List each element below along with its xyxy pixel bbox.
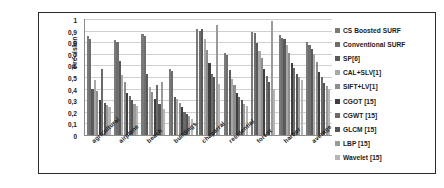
legend-swatch-icon xyxy=(335,84,340,89)
y-axis-tick: 0 xyxy=(51,134,77,141)
legend-swatch-icon xyxy=(335,99,340,104)
legend-item: SP[6] xyxy=(335,52,433,64)
legend-label: SP[6] xyxy=(343,55,360,62)
chart-screenshot: Precision 10,90,80,70,60,50,40,30,20,10 … xyxy=(0,0,444,188)
legend-swatch-icon xyxy=(335,70,340,75)
y-axis-tick: 0,9 xyxy=(51,29,77,36)
legend-label: CS Boosted SURF xyxy=(343,27,401,34)
plot-area xyxy=(84,19,332,136)
x-axis-tick-labels: agriculturalairplanebeachbuildingschapar… xyxy=(84,137,331,173)
legend-label: GLCM [15] xyxy=(343,126,376,133)
bar-group xyxy=(222,19,249,135)
legend-swatch-icon xyxy=(335,56,340,61)
bar-group xyxy=(195,19,222,135)
legend-item: CGOT [15] xyxy=(335,95,433,107)
legend-swatch-icon xyxy=(335,28,340,33)
y-axis-tick: 1 xyxy=(51,18,77,25)
y-axis-tick: 0,2 xyxy=(51,111,77,118)
legend-label: CGOT [15] xyxy=(343,98,376,105)
bar-group xyxy=(305,19,332,135)
legend-label: LBP [15] xyxy=(343,140,370,147)
legend-item: LBP [15] xyxy=(335,138,433,150)
legend-swatch-icon xyxy=(335,155,340,160)
bar xyxy=(163,109,165,135)
y-axis-tick-labels: 10,90,80,70,60,50,40,30,20,10 xyxy=(51,17,77,137)
bar-group xyxy=(85,19,112,135)
legend-label: Conventional SURF xyxy=(343,41,405,48)
bar-group xyxy=(277,19,304,135)
legend-swatch-icon xyxy=(335,42,340,47)
y-axis-tick: 0,7 xyxy=(51,53,77,60)
chart-legend: CS Boosted SURFConventional SURFSP[6]CAL… xyxy=(335,21,433,167)
legend-label: CGWT [15] xyxy=(343,112,377,119)
y-axis-tick: 0,5 xyxy=(51,76,77,83)
chart-frame: Precision 10,90,80,70,60,50,40,30,20,10 … xyxy=(38,12,436,174)
bar xyxy=(273,89,275,135)
legend-item: CGWT [15] xyxy=(335,109,433,121)
legend-item: CAL+SLV[1] xyxy=(335,67,433,79)
legend-item: SIFT+LV[1] xyxy=(335,81,433,93)
legend-label: Wavelet [15] xyxy=(343,154,382,161)
y-axis-tick: 0,8 xyxy=(51,41,77,48)
bar-groups xyxy=(85,19,332,135)
y-axis-tick: 0,3 xyxy=(51,99,77,106)
bar-group xyxy=(140,19,167,135)
bar xyxy=(301,80,303,135)
legend-item: GLCM [15] xyxy=(335,124,433,136)
legend-label: CAL+SLV[1] xyxy=(343,69,381,76)
bar-group xyxy=(250,19,277,135)
bar-group xyxy=(167,19,194,135)
legend-item: Conventional SURF xyxy=(335,38,433,50)
y-axis-tick: 0,6 xyxy=(51,64,77,71)
legend-item: Wavelet [15] xyxy=(335,152,433,164)
legend-swatch-icon xyxy=(335,141,340,146)
legend-item: CS Boosted SURF xyxy=(335,24,433,36)
legend-label: SIFT+LV[1] xyxy=(343,83,378,90)
legend-swatch-icon xyxy=(335,127,340,132)
y-axis-tick: 0,1 xyxy=(51,122,77,129)
y-axis-tick: 0,4 xyxy=(51,87,77,94)
legend-swatch-icon xyxy=(335,113,340,118)
